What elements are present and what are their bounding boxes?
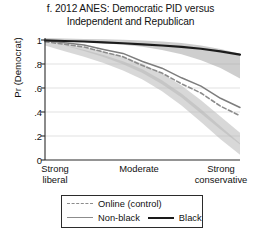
legend-label-black: Black — [179, 213, 202, 223]
legend-item-online: Online (control) — [67, 199, 162, 209]
legend-swatch-gray-line-icon — [67, 213, 93, 223]
confidence-bands — [45, 38, 240, 155]
chart-figure: f. 2012 ANES: Democratic PID versus Inde… — [0, 0, 261, 232]
chart-legend: Online (control) Non-black Black — [61, 195, 203, 228]
legend-swatch-dashed-line-icon — [67, 199, 93, 209]
legend-item-nonblack-black: Non-black Black — [67, 213, 202, 223]
legend-swatch-black-line-icon — [148, 213, 174, 223]
y-axis-ticks — [41, 40, 45, 160]
legend-label-online: Online (control) — [98, 199, 162, 209]
legend-label-nonblack: Non-black — [98, 213, 140, 223]
